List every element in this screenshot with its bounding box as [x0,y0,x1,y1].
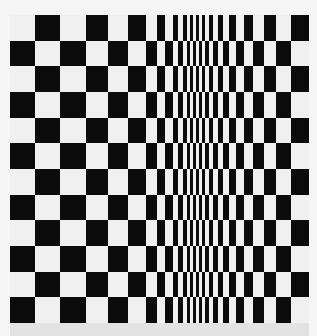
dark-square [253,143,264,169]
dark-square [157,220,165,246]
dark-square [205,92,209,118]
dark-square [244,169,253,195]
dark-square [10,195,35,220]
dark-square [202,15,205,41]
dark-square [213,92,218,118]
dark-square [218,220,223,246]
dark-square [146,195,157,220]
dark-square [236,41,244,66]
dark-square [218,66,223,92]
dark-square [128,66,146,92]
dark-square [196,220,199,246]
dark-square [10,41,35,66]
dark-square [193,41,196,66]
dark-square [236,143,244,169]
dark-square [199,41,202,66]
dark-square [60,195,86,220]
dark-square [183,169,187,195]
checkerboard-artwork [10,15,309,323]
dark-square [213,297,218,323]
dark-square [183,272,187,297]
dark-square [108,41,128,66]
dark-square [229,169,236,195]
dark-square [178,92,183,118]
dark-square [35,118,60,143]
dark-square [193,92,196,118]
dark-square [86,169,108,195]
dark-square [165,195,173,220]
dark-square [253,297,264,323]
dark-square [291,272,309,297]
dark-square [146,41,157,66]
dark-square [190,118,193,143]
dark-square [10,246,35,272]
dark-square [291,169,309,195]
dark-square [146,246,157,272]
dark-square [60,143,86,169]
dark-square [253,41,264,66]
dark-square [213,195,218,220]
dark-square [199,92,202,118]
dark-square [205,41,209,66]
dark-square [157,272,165,297]
dark-square [60,41,86,66]
dark-square [190,220,193,246]
dark-square [183,220,187,246]
dark-square [128,15,146,41]
dark-square [218,118,223,143]
dark-square [165,92,173,118]
dark-square [229,272,236,297]
dark-square [202,220,205,246]
dark-square [244,272,253,297]
dark-square [187,143,190,169]
dark-square [10,143,35,169]
dark-square [291,118,309,143]
dark-square [199,246,202,272]
dark-square [146,92,157,118]
dark-square [178,143,183,169]
dark-square [86,15,108,41]
dark-square [223,297,229,323]
dark-square [86,118,108,143]
dark-square [205,246,209,272]
dark-square [178,195,183,220]
dark-square [253,92,264,118]
dark-square [146,297,157,323]
dark-square [157,15,165,41]
dark-square [165,297,173,323]
dark-square [202,169,205,195]
dark-square [178,246,183,272]
dark-square [244,118,253,143]
dark-square [187,195,190,220]
dark-square [128,118,146,143]
dark-square [199,195,202,220]
dark-square [183,15,187,41]
dark-square [108,297,128,323]
dark-square [276,41,291,66]
dark-square [157,169,165,195]
dark-square [193,246,196,272]
dark-square [128,169,146,195]
dark-square [173,272,178,297]
dark-square [223,92,229,118]
dark-square [223,41,229,66]
dark-square [209,66,213,92]
dark-square [190,66,193,92]
dark-square [60,92,86,118]
dark-square [291,220,309,246]
dark-square [196,118,199,143]
dark-square [291,66,309,92]
dark-square [202,66,205,92]
dark-square [173,15,178,41]
dark-square [196,169,199,195]
dark-square [128,220,146,246]
dark-square [264,220,276,246]
dark-square [264,118,276,143]
dark-square [264,66,276,92]
dark-square [193,297,196,323]
dark-square [244,15,253,41]
dark-square [276,195,291,220]
dark-square [187,41,190,66]
dark-square [209,220,213,246]
dark-square [60,297,86,323]
